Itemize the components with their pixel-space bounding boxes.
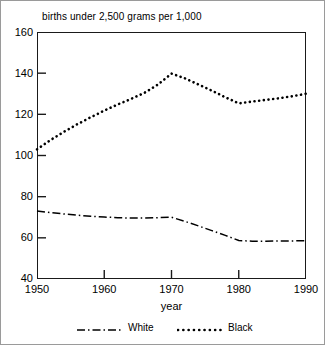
chart-legend: White Black xyxy=(37,321,306,339)
x-axis-title: year xyxy=(37,300,306,312)
x-tick-label-1990: 1990 xyxy=(294,284,318,295)
legend-label-black: Black xyxy=(228,322,252,334)
y-tick-label-160: 160 xyxy=(15,27,33,38)
chart-figure: births under 2,500 grams per 1,000 160 1… xyxy=(0,0,325,345)
legend-entry-white: White xyxy=(77,321,154,335)
y-axis-tick-labels: 160 140 120 100 80 60 40 xyxy=(1,32,33,279)
plot-area xyxy=(37,32,306,279)
dotted-line-icon xyxy=(177,324,223,336)
legend-label-white: White xyxy=(128,322,154,334)
legend-swatch-white-dash-dot-icon xyxy=(77,322,123,334)
legend-entry-black: Black xyxy=(177,321,252,335)
y-tick-label-140: 140 xyxy=(15,68,33,79)
chart-title: births under 2,500 grams per 1,000 xyxy=(42,11,202,23)
x-tick-label-1950: 1950 xyxy=(25,284,49,295)
series-line-black xyxy=(37,74,306,150)
x-axis-tick-labels: 1950 1960 1970 1980 1990 xyxy=(37,284,306,300)
x-tick-label-1980: 1980 xyxy=(227,284,251,295)
y-tick-label-100: 100 xyxy=(15,150,33,161)
x-tick-label-1960: 1960 xyxy=(92,284,116,295)
x-tick-label-1970: 1970 xyxy=(159,284,183,295)
dash-dot-line-icon xyxy=(77,324,123,336)
data-series-layer xyxy=(37,32,306,279)
y-tick-label-80: 80 xyxy=(21,191,33,202)
series-line-white xyxy=(37,211,306,241)
legend-swatch-black-dotted-icon xyxy=(177,322,223,334)
y-tick-label-120: 120 xyxy=(15,109,33,120)
y-tick-label-60: 60 xyxy=(21,232,33,243)
